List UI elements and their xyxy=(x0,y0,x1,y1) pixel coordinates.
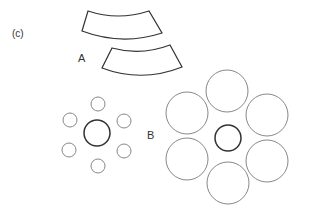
small-satellite-circle xyxy=(62,143,76,157)
large-satellite-circle xyxy=(166,92,208,134)
small-satellite-circle xyxy=(117,114,131,128)
small-satellite-circle xyxy=(91,97,105,111)
small-satellite-circle xyxy=(117,144,131,158)
group-b-large-cluster xyxy=(166,70,288,204)
small-cluster-center-circle xyxy=(84,120,110,146)
group-b-small-cluster xyxy=(62,97,131,173)
label-b: B xyxy=(147,129,154,141)
small-satellite-circle xyxy=(63,113,77,127)
arc-segment-upper xyxy=(82,11,162,39)
large-cluster-center-circle xyxy=(215,125,241,151)
arc-segment-lower xyxy=(102,45,182,75)
large-satellite-circle xyxy=(246,94,288,136)
diagram-canvas: (c) A B xyxy=(0,0,309,219)
group-a-arc-segments xyxy=(82,11,182,75)
large-satellite-circle xyxy=(207,162,249,204)
small-satellite-circle xyxy=(91,159,105,173)
panel-label: (c) xyxy=(12,28,24,39)
large-satellite-circle xyxy=(206,70,248,112)
label-a: A xyxy=(78,52,86,64)
large-satellite-circle xyxy=(166,138,208,180)
large-satellite-circle xyxy=(246,140,288,182)
